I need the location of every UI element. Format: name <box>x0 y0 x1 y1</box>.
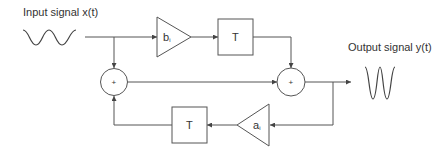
output-signal-label: Output signal y(t) <box>348 41 432 53</box>
input-wave-icon <box>23 30 76 45</box>
delay-to-summer-line <box>253 37 291 68</box>
feedback-delay-label: T <box>186 119 193 131</box>
right-summer-plus: + <box>289 78 294 87</box>
iir-filter-diagram: Input signal x(t) Output signal y(t) bi … <box>0 0 447 152</box>
feedforward-delay-label: T <box>232 31 239 43</box>
input-signal-label: Input signal x(t) <box>23 6 98 18</box>
left-summer-plus: + <box>112 78 117 87</box>
diagram-canvas: Input signal x(t) Output signal y(t) bi … <box>0 0 447 152</box>
output-wave-icon <box>365 67 395 99</box>
feedback-return-line <box>114 96 172 125</box>
